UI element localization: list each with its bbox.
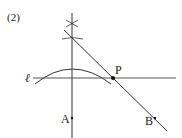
line-l-label: ℓ [25,71,30,85]
point-a-dot [71,117,73,119]
point-b-dot [154,117,156,119]
point-b-label: B [145,114,153,128]
point-p-label: P [115,63,122,77]
geometry-diagram: (2) ℓ P A B [0,0,182,138]
problem-number: (2) [7,11,20,24]
point-a-label: A [61,112,70,126]
construction-arc [35,69,111,84]
